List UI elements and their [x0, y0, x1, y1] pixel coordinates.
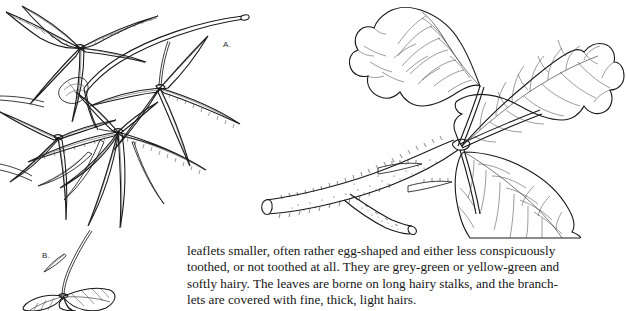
figure-b-drawing	[4, 228, 114, 311]
stem-hairs-upper	[281, 136, 442, 199]
stalk-cut-end	[240, 14, 249, 21]
figure-a-strokes	[0, 6, 250, 228]
figure-b-illustration	[4, 228, 114, 311]
stem-hairs-lower	[279, 184, 390, 218]
figure-b-strokes	[23, 230, 115, 311]
leaflet-upper-right	[454, 40, 624, 146]
figure-right-strokes	[262, 8, 624, 239]
bud-detail	[59, 77, 88, 103]
twig-stipple	[362, 208, 399, 230]
figure-b-label: B.	[42, 251, 51, 260]
leaflet-upper-left	[349, 8, 480, 107]
figure-a-drawing	[0, 0, 262, 240]
body-text: leaflets smaller, often rather egg-shape…	[187, 243, 625, 309]
figure-a-illustration	[0, 0, 262, 240]
illustration-page: A.	[0, 0, 626, 311]
figure-a-label: A.	[223, 40, 232, 49]
leaflet-lower-right	[455, 152, 580, 238]
figure-right-drawing	[258, 0, 626, 238]
node-1-leaflets	[6, 6, 158, 122]
hairy-branchlet	[262, 136, 458, 235]
figure-right-illustration	[258, 0, 626, 238]
node-3-leaflets	[28, 92, 206, 228]
